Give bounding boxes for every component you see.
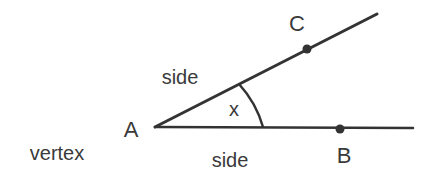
label-angle-x: x bbox=[229, 98, 239, 120]
label-side-upper: side bbox=[162, 66, 199, 88]
label-vertex: vertex bbox=[30, 142, 84, 164]
point-c bbox=[303, 45, 312, 54]
angle-diagram: C A B x side side vertex bbox=[0, 0, 434, 184]
label-a: A bbox=[124, 117, 139, 142]
label-b: B bbox=[337, 143, 352, 168]
ray-ab bbox=[155, 127, 413, 128]
label-side-lower: side bbox=[212, 149, 249, 171]
label-c: C bbox=[289, 11, 305, 36]
angle-arc bbox=[239, 84, 263, 127]
point-b bbox=[336, 125, 345, 134]
